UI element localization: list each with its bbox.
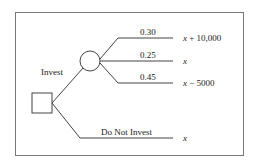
probability-3: 0.45 — [140, 72, 156, 82]
outcome-3-diag — [100, 63, 118, 83]
probability-2: 0.25 — [140, 50, 156, 60]
invest-label: Invest — [41, 67, 63, 77]
payoff-1: x + 10,000 — [182, 33, 222, 43]
probability-1: 0.30 — [140, 27, 156, 37]
payoff-do-not-invest: x — [182, 133, 187, 143]
decision-tree-diagram: Invest Do Not Invest 0.30 0.25 0.45 x + … — [0, 0, 257, 165]
chance-node-circle — [80, 51, 100, 71]
payoff-3: x − 5000 — [182, 78, 215, 88]
outcome-1-diag — [100, 38, 118, 59]
decision-node-square — [32, 93, 52, 113]
do-not-invest-branch-diag — [52, 103, 80, 138]
payoff-2: x — [182, 56, 187, 66]
do-not-invest-label: Do Not Invest — [101, 127, 152, 137]
